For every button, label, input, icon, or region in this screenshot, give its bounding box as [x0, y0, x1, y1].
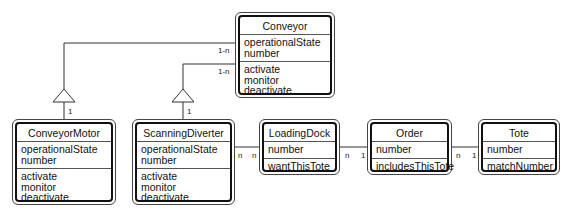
class-conveyor-motor[interactable]: ConveyorMotor operationalState number ac…: [12, 119, 116, 205]
attribute: number: [376, 144, 443, 155]
class-name: ConveyorMotor: [17, 124, 111, 142]
class-name: Order: [372, 124, 447, 142]
attribute: operationalState: [244, 37, 326, 48]
operation: activate: [244, 64, 326, 75]
attribute: number: [487, 144, 551, 155]
attribute: operationalState: [21, 144, 107, 155]
operation: wantThisTote: [268, 161, 331, 172]
operations: activate monitor deactivate: [240, 61, 330, 99]
operation: deactivate: [141, 192, 226, 203]
attribute: number: [244, 48, 326, 59]
operations: matchNumber: [483, 158, 555, 175]
multiplicity-label: 1: [361, 151, 365, 160]
attributes: operationalState number: [137, 142, 230, 168]
attribute: number: [141, 155, 226, 166]
operation: deactivate: [21, 192, 107, 203]
multiplicity-label: n: [456, 151, 460, 160]
attributes: operationalState number: [240, 35, 330, 61]
multiplicity-label: 1-n: [218, 67, 230, 76]
attributes: number: [264, 142, 335, 158]
operations: includesThisTote: [372, 158, 447, 175]
operation: includesThisTote: [376, 161, 443, 172]
multiplicity-label: n: [345, 151, 349, 160]
operations: activate monitor deactivate: [137, 168, 230, 206]
class-conveyor[interactable]: Conveyor operationalState number activat…: [235, 12, 335, 98]
multiplicity-label: n: [252, 151, 256, 160]
attributes: operationalState number: [17, 142, 111, 168]
operation: activate: [21, 171, 107, 182]
class-name: Conveyor: [240, 17, 330, 35]
multiplicity-label: 1: [187, 107, 191, 116]
class-loading-dock[interactable]: LoadingDock number wantThisTote: [259, 119, 340, 175]
class-name: ScanningDiverter: [137, 124, 230, 142]
operations: activate monitor deactivate: [17, 168, 111, 206]
attributes: number: [372, 142, 447, 158]
class-name: Tote: [483, 124, 555, 142]
multiplicity-label: 1: [472, 151, 476, 160]
attribute: number: [268, 144, 331, 155]
multiplicity-label: 1-n: [218, 46, 230, 55]
multiplicity-label: 1: [68, 107, 72, 116]
attribute: operationalState: [141, 144, 226, 155]
attribute: number: [21, 155, 107, 166]
multiplicity-label: n: [238, 151, 242, 160]
operation: deactivate: [244, 85, 326, 96]
operations: wantThisTote: [264, 158, 335, 175]
attributes: number: [483, 142, 555, 158]
class-tote[interactable]: Tote number matchNumber: [478, 119, 560, 175]
class-scanning-diverter[interactable]: ScanningDiverter operationalState number…: [132, 119, 235, 205]
class-name: LoadingDock: [264, 124, 335, 142]
class-order[interactable]: Order number includesThisTote: [367, 119, 452, 175]
operation: matchNumber: [487, 161, 551, 172]
operation: activate: [141, 171, 226, 182]
